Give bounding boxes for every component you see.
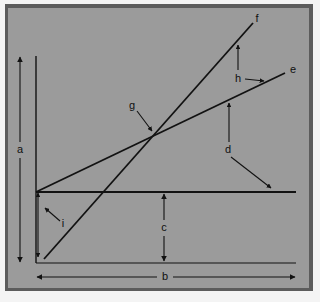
dimension-i-label: i <box>62 217 64 229</box>
dimension-c-label: c <box>161 221 167 233</box>
figure-container: a b c i d h g f e <box>0 0 320 302</box>
figure-field <box>8 8 309 288</box>
dimension-b-label: b <box>162 270 168 282</box>
diagram-canvas: a b c i d h g f e <box>0 0 320 302</box>
leader-d-label: d <box>225 143 231 155</box>
leader-h-label: h <box>235 72 241 84</box>
series-e-label: e <box>290 63 296 75</box>
leader-g-label: g <box>129 99 135 111</box>
dimension-a-label: a <box>17 143 24 155</box>
